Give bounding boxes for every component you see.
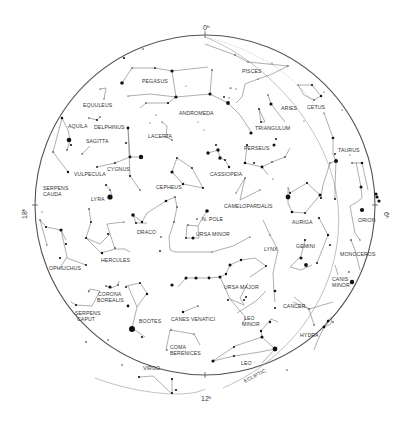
label-pegasus: PEGASUS: [142, 78, 168, 84]
label-cygnus: CYGNUS: [107, 166, 130, 172]
label-aquila: AQUILA: [68, 123, 88, 129]
label-lyra: LYRA: [91, 196, 105, 202]
ecliptic-inner-line: [95, 378, 205, 394]
label-hercules: HERCULES: [101, 257, 130, 263]
label-triangulum: TRIANGULUM: [255, 125, 290, 131]
label-lynx: LYNX: [264, 246, 278, 252]
label-corona-borealis-2: BOREALIS: [97, 297, 124, 303]
label-virgo: VIRGO: [143, 365, 160, 371]
label-ophiuchus: OPHIUCHUS: [49, 265, 81, 271]
label-leo: LEO: [241, 360, 252, 366]
label-aries: ARIES: [281, 105, 298, 111]
label-hydra: HYDRA: [300, 332, 319, 338]
label-andromeda: ANDROMEDA: [179, 110, 214, 116]
label-perseus: PERSEUS: [244, 145, 270, 151]
label-cetus: CETUS: [307, 104, 326, 110]
label-vulpecula: VULPECULA: [74, 171, 106, 177]
label-lacerta: LACERTA: [148, 133, 173, 139]
label-orion: ORION: [358, 217, 376, 223]
hour-label-0h: 0ʰ: [203, 24, 210, 31]
horizon-circle: [35, 35, 375, 375]
hour-label-18h: 18ʰ: [21, 208, 28, 219]
label-monoceros: MONOCEROS: [340, 251, 376, 257]
label-camelopardalis: CAMELOPARDALIS: [224, 203, 273, 209]
label-delphinus: DELPHINUS: [94, 124, 125, 130]
label-cassiopeia: CASSIOPEIA: [210, 171, 243, 177]
label-auriga: AURIGA: [292, 219, 313, 225]
label-equuleus: EQUULEUS: [83, 102, 113, 108]
constellation-labels: PEGASUS PISCES EQUULEUS ANDROMEDA ARIES …: [43, 68, 376, 384]
label-bootes: BOOTES: [139, 318, 162, 324]
label-cancer: CANCER: [283, 303, 306, 309]
label-coma-berenices-2: BERENICES: [170, 350, 201, 356]
label-n-pole: N. POLE: [202, 216, 224, 222]
label-sagitta: SAGITTA: [86, 138, 109, 144]
label-ursa-major: URSA MAJOR: [224, 284, 259, 290]
label-cepheus: CEPHEUS: [156, 184, 182, 190]
label-canis-minor-2: MINOR: [332, 282, 350, 288]
label-taurus: TAURUS: [338, 147, 360, 153]
label-serpens-caput-2: CAPUT: [77, 316, 96, 322]
label-gemini: GEMINI: [296, 243, 315, 249]
label-serpens-cauda-2: CAUDA: [43, 191, 62, 197]
hour-label-12h: 12ʰ: [201, 395, 212, 402]
hour-label-6h: 6ʰ: [383, 212, 390, 219]
label-ursa-minor: URSA MINOR: [196, 231, 230, 237]
label-draco: DRACO: [137, 229, 156, 235]
label-pisces: PISCES: [242, 68, 262, 74]
label-canes-venatici: CANES VENATICI: [171, 316, 215, 322]
label-leo-minor-2: MINOR: [242, 321, 260, 327]
star-chart: 0ʰ 6ʰ 12ʰ 18ʰ: [0, 0, 410, 425]
